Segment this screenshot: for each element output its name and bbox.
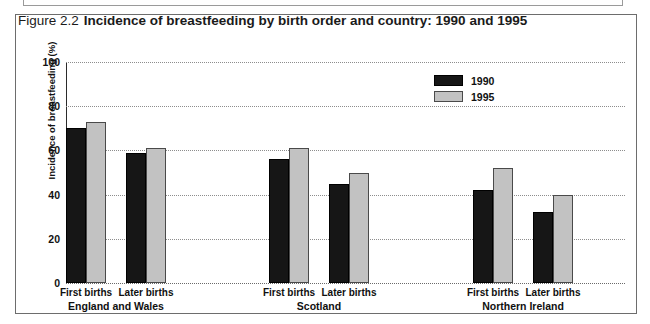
- bar-1995-england-and-wales-later-births: [146, 148, 166, 283]
- legend-label: 1990: [471, 75, 494, 87]
- page-title: Incidence of breastfeeding by birth orde…: [84, 13, 527, 28]
- x-axis-category-label: First births: [263, 287, 315, 298]
- x-axis-category-label: First births: [467, 287, 519, 298]
- x-axis-category-label: First births: [60, 287, 112, 298]
- gridline: [66, 62, 625, 63]
- bar-1995-scotland-first-births: [289, 148, 309, 283]
- y-axis-title: Incidence of breastfeeding (%): [46, 16, 57, 206]
- bar-1995-england-and-wales-first-births: [86, 122, 106, 283]
- bar-1990-england-and-wales-first-births: [66, 128, 86, 283]
- bar-1990-england-and-wales-later-births: [126, 153, 146, 283]
- partial-box-above: [23, 0, 623, 6]
- legend-swatch-1995: [434, 91, 463, 102]
- y-axis-tick-label: 20: [48, 233, 60, 245]
- bar-1995-scotland-later-births: [349, 173, 369, 284]
- x-axis-group-label: Scotland: [297, 300, 341, 312]
- gridline: [66, 106, 625, 107]
- plot-area: [66, 62, 625, 283]
- x-axis-group-label: England and Wales: [68, 300, 164, 312]
- x-axis-category-label: Later births: [321, 287, 376, 298]
- x-axis-group-label: Northern Ireland: [482, 300, 564, 312]
- bar-1995-northern-ireland-later-births: [553, 195, 573, 283]
- bar-1995-northern-ireland-first-births: [493, 168, 513, 283]
- bar-1990-northern-ireland-first-births: [473, 190, 493, 283]
- x-axis-category-label: Later births: [118, 287, 173, 298]
- legend-label: 1995: [471, 91, 494, 103]
- x-axis-category-label: Later births: [525, 287, 580, 298]
- figure-caption: Figure 2.2Incidence of breastfeeding by …: [18, 13, 527, 28]
- bar-1990-scotland-first-births: [269, 159, 289, 283]
- legend-item-1990: 1990: [434, 74, 494, 87]
- bar-1990-northern-ireland-later-births: [533, 212, 553, 283]
- legend-swatch-1990: [434, 75, 463, 86]
- axis-baseline: [66, 283, 625, 284]
- legend-item-1995: 1995: [434, 90, 494, 103]
- chart-legend: 19901995: [434, 74, 494, 106]
- bar-1990-scotland-later-births: [329, 184, 349, 283]
